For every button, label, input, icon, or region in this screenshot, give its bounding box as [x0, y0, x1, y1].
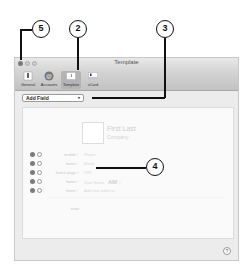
field-label[interactable]: home page ⁝: [56, 170, 78, 175]
template-pane: Add Field ▾ First Last Company mobile ⁝ …: [15, 91, 238, 260]
card-template: First Last Company mobile ⁝ Phone home ⁝…: [22, 107, 234, 239]
add-field-label: Add Field: [26, 95, 49, 101]
field-value: Phone: [84, 152, 96, 157]
remove-field-icon[interactable]: [30, 152, 35, 157]
field-value: URL: [84, 170, 92, 175]
callout-leader-2: [77, 38, 79, 70]
preferences-toolbar: General @ Accounts Template vCard: [15, 70, 238, 91]
field-row-address: home ⁝ Add new address: [23, 187, 233, 195]
field-value: Email: [84, 161, 94, 166]
callout-leader-3: [92, 97, 165, 99]
tab-general[interactable]: General: [18, 71, 38, 89]
field-row-url: home page ⁝ URL: [23, 169, 233, 177]
tab-accounts[interactable]: @ Accounts: [39, 71, 59, 89]
remove-field-icon[interactable]: [30, 179, 35, 184]
field-value: Add new address: [84, 188, 115, 193]
chevron-down-icon: ▾: [78, 95, 80, 101]
callout-leader-5: [20, 29, 32, 31]
field-value: User NameAIM ⁝: [84, 179, 121, 185]
field-label[interactable]: mobile ⁝: [64, 152, 78, 157]
callout-leader-5: [20, 30, 22, 60]
callout-5: 5: [32, 20, 50, 38]
field-row-phone: mobile ⁝ Phone: [23, 151, 233, 159]
callout-4: 4: [146, 158, 164, 176]
remove-field-icon[interactable]: [30, 188, 35, 193]
callout-2: 2: [69, 20, 87, 38]
accounts-at-icon: @: [44, 71, 54, 81]
tab-label: vCard: [83, 82, 103, 87]
template-card-icon: [66, 71, 76, 81]
callout-3: 3: [156, 20, 174, 38]
add-field-icon[interactable]: [37, 179, 42, 184]
tab-vcard[interactable]: vCard: [83, 71, 103, 89]
add-field-icon[interactable]: [37, 170, 42, 175]
remove-field-icon[interactable]: [30, 170, 35, 175]
tab-label: General: [18, 82, 38, 87]
field-label[interactable]: home ⁝: [66, 179, 78, 184]
remove-field-icon[interactable]: [30, 161, 35, 166]
general-switch-icon: [23, 71, 33, 81]
note-label: note:: [71, 206, 80, 211]
im-service[interactable]: AIM ⁝: [108, 179, 120, 185]
vcard-icon: [88, 71, 98, 81]
add-field-popup[interactable]: Add Field ▾: [22, 94, 84, 102]
preferences-window: Template General @ Accounts Template: [14, 57, 239, 261]
field-row-im: home ⁝ User NameAIM ⁝: [23, 178, 233, 186]
title-bar: Template: [15, 58, 238, 70]
callout-leader-4: [96, 167, 146, 169]
card-name: First Last: [107, 125, 136, 132]
card-company: Company: [107, 134, 128, 140]
help-button[interactable]: ?: [223, 247, 231, 255]
field-label[interactable]: home ⁝: [66, 188, 78, 193]
svg-text:@: @: [46, 73, 52, 79]
im-username: User Name: [84, 180, 104, 185]
window-title: Template: [15, 59, 238, 65]
divider: [48, 197, 223, 198]
add-field-icon[interactable]: [37, 152, 42, 157]
photo-placeholder[interactable]: [82, 122, 104, 144]
add-field-icon[interactable]: [37, 161, 42, 166]
add-field-icon[interactable]: [37, 188, 42, 193]
tab-label: Accounts: [39, 82, 59, 87]
callout-leader-3: [164, 38, 166, 98]
tab-template[interactable]: Template: [61, 71, 81, 89]
tab-label: Template: [61, 82, 81, 87]
field-label[interactable]: home ⁝: [66, 161, 78, 166]
